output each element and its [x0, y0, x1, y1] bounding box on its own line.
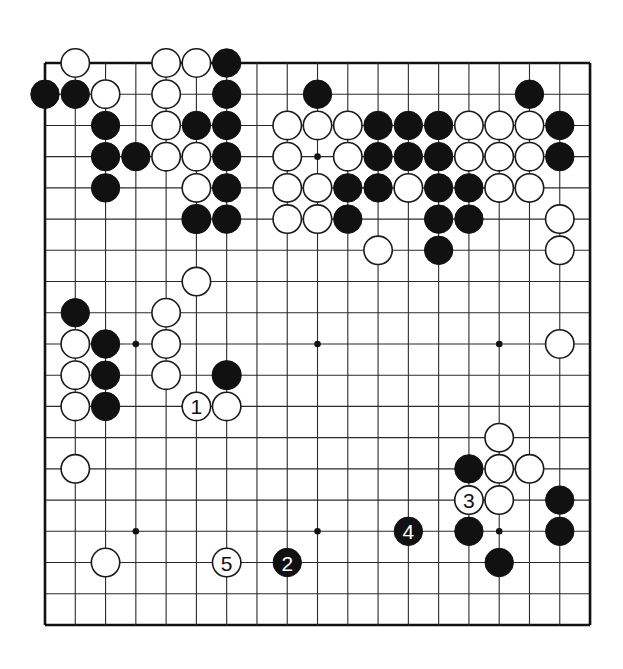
move-number-label: 1: [191, 395, 203, 418]
numbered-move-3[interactable]: 3: [455, 486, 483, 514]
black-stone[interactable]: [212, 49, 240, 77]
white-stone[interactable]: [152, 330, 180, 358]
white-stone[interactable]: [485, 142, 513, 170]
white-stone[interactable]: [364, 236, 392, 264]
black-stone[interactable]: [364, 174, 392, 202]
white-stone[interactable]: [152, 299, 180, 327]
go-board[interactable]: 12345: [0, 0, 623, 669]
white-stone[interactable]: [182, 49, 210, 77]
white-stone[interactable]: [485, 486, 513, 514]
white-stone[interactable]: [182, 174, 210, 202]
star-point: [314, 528, 321, 535]
black-stone[interactable]: [91, 111, 119, 139]
black-stone[interactable]: [364, 142, 392, 170]
black-stone[interactable]: [424, 205, 452, 233]
white-stone[interactable]: [273, 174, 301, 202]
black-stone[interactable]: [212, 205, 240, 233]
white-stone[interactable]: [334, 142, 362, 170]
black-stone[interactable]: [424, 236, 452, 264]
black-stone[interactable]: [455, 205, 483, 233]
black-stone[interactable]: [212, 142, 240, 170]
black-stone[interactable]: [122, 142, 150, 170]
white-stone[interactable]: [273, 111, 301, 139]
move-number-label: 4: [403, 520, 415, 543]
black-stone[interactable]: [334, 174, 362, 202]
numbered-move-2[interactable]: 2: [273, 548, 301, 576]
black-stone[interactable]: [91, 392, 119, 420]
black-stone[interactable]: [455, 174, 483, 202]
white-stone[interactable]: [546, 330, 574, 358]
white-stone[interactable]: [303, 205, 331, 233]
black-stone[interactable]: [303, 80, 331, 108]
numbered-move-5[interactable]: 5: [212, 548, 240, 576]
white-stone[interactable]: [61, 330, 89, 358]
black-stone[interactable]: [182, 111, 210, 139]
white-stone[interactable]: [546, 236, 574, 264]
black-stone[interactable]: [546, 517, 574, 545]
black-stone[interactable]: [212, 174, 240, 202]
white-stone[interactable]: [515, 142, 543, 170]
white-stone[interactable]: [152, 111, 180, 139]
move-number-label: 5: [221, 552, 233, 575]
black-stone[interactable]: [394, 142, 422, 170]
black-stone[interactable]: [455, 517, 483, 545]
star-point: [496, 341, 503, 348]
black-stone[interactable]: [364, 111, 392, 139]
go-board-canvas[interactable]: 12345: [0, 0, 623, 669]
black-stone[interactable]: [91, 174, 119, 202]
white-stone[interactable]: [303, 174, 331, 202]
black-stone[interactable]: [91, 142, 119, 170]
white-stone[interactable]: [61, 455, 89, 483]
white-stone[interactable]: [455, 142, 483, 170]
white-stone[interactable]: [152, 80, 180, 108]
black-stone[interactable]: [91, 330, 119, 358]
numbered-move-4[interactable]: 4: [394, 517, 422, 545]
black-stone[interactable]: [485, 548, 513, 576]
black-stone[interactable]: [424, 111, 452, 139]
black-stone[interactable]: [424, 142, 452, 170]
white-stone[interactable]: [455, 111, 483, 139]
black-stone[interactable]: [334, 205, 362, 233]
white-stone[interactable]: [515, 455, 543, 483]
white-stone[interactable]: [394, 174, 422, 202]
black-stone[interactable]: [91, 361, 119, 389]
black-stone[interactable]: [515, 80, 543, 108]
black-stone[interactable]: [546, 486, 574, 514]
black-stone[interactable]: [394, 111, 422, 139]
white-stone[interactable]: [182, 142, 210, 170]
white-stone[interactable]: [152, 361, 180, 389]
white-stone[interactable]: [485, 423, 513, 451]
white-stone[interactable]: [273, 142, 301, 170]
black-stone[interactable]: [61, 80, 89, 108]
white-stone[interactable]: [485, 174, 513, 202]
white-stone[interactable]: [91, 80, 119, 108]
black-stone[interactable]: [546, 142, 574, 170]
black-stone[interactable]: [31, 80, 59, 108]
black-stone[interactable]: [182, 205, 210, 233]
black-stone[interactable]: [212, 361, 240, 389]
black-stone[interactable]: [61, 299, 89, 327]
black-stone[interactable]: [455, 455, 483, 483]
white-stone[interactable]: [546, 205, 574, 233]
white-stone[interactable]: [152, 49, 180, 77]
white-stone[interactable]: [182, 267, 210, 295]
white-stone[interactable]: [152, 142, 180, 170]
white-stone[interactable]: [273, 205, 301, 233]
white-stone[interactable]: [515, 174, 543, 202]
white-stone[interactable]: [485, 455, 513, 483]
white-stone[interactable]: [91, 548, 119, 576]
numbered-move-1[interactable]: 1: [182, 392, 210, 420]
white-stone[interactable]: [485, 111, 513, 139]
white-stone[interactable]: [61, 361, 89, 389]
black-stone[interactable]: [424, 174, 452, 202]
star-point: [133, 528, 140, 535]
white-stone[interactable]: [303, 111, 331, 139]
white-stone[interactable]: [515, 111, 543, 139]
white-stone[interactable]: [61, 392, 89, 420]
black-stone[interactable]: [212, 111, 240, 139]
black-stone[interactable]: [212, 80, 240, 108]
white-stone[interactable]: [334, 111, 362, 139]
white-stone[interactable]: [212, 392, 240, 420]
white-stone[interactable]: [61, 49, 89, 77]
black-stone[interactable]: [546, 111, 574, 139]
